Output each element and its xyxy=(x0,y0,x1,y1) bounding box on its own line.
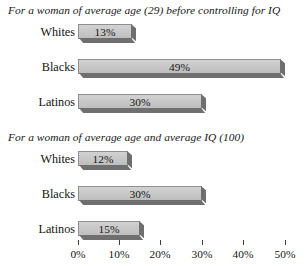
panel-1-title: For a woman of average age (29) before c… xyxy=(8,4,280,17)
x-axis-tick-label: 30% xyxy=(182,247,222,261)
bar-row: Whites 13% xyxy=(0,24,307,44)
bar-whites: 13% xyxy=(78,24,132,39)
x-axis: 0% 10% 20% 30% 40% 50% xyxy=(0,240,307,266)
bar-value-label: 15% xyxy=(79,222,139,237)
bar-latinos: 30% xyxy=(78,94,202,109)
category-label-latinos: Latinos xyxy=(0,95,75,110)
x-axis-tick xyxy=(202,240,203,245)
category-label-blacks: Blacks xyxy=(0,187,75,202)
x-axis-tick-label: 50% xyxy=(265,247,305,261)
bar-blacks: 49% xyxy=(78,59,281,74)
bar-row: Blacks 30% xyxy=(0,186,307,206)
x-axis-tick-label: 0% xyxy=(58,247,98,261)
x-axis-tick xyxy=(285,240,286,245)
bar-value-label: 13% xyxy=(79,25,131,40)
x-axis-tick xyxy=(243,240,244,245)
x-axis-tick-label: 40% xyxy=(223,247,263,261)
bar-value-label: 12% xyxy=(79,152,127,167)
bar-row: Blacks 49% xyxy=(0,59,307,79)
bar-value-label: 49% xyxy=(79,60,280,75)
bar-row: Latinos 15% xyxy=(0,221,307,241)
bar-value-label: 30% xyxy=(79,95,201,110)
x-axis-tick xyxy=(160,240,161,245)
bar-latinos: 15% xyxy=(78,221,140,236)
bar-blacks: 30% xyxy=(78,186,202,201)
bar-whites: 12% xyxy=(78,151,128,166)
x-axis-tick-label: 20% xyxy=(140,247,180,261)
category-label-whites: Whites xyxy=(0,25,75,40)
bar-value-label: 30% xyxy=(79,187,201,202)
category-label-latinos: Latinos xyxy=(0,222,75,237)
chart-figure: For a woman of average age (29) before c… xyxy=(0,0,307,266)
category-label-whites: Whites xyxy=(0,152,75,167)
x-axis-tick-label: 10% xyxy=(99,247,139,261)
panel-2-plot-area: Whites 12% Blacks 30% Latinos 15% xyxy=(0,147,307,239)
bar-row: Whites 12% xyxy=(0,151,307,171)
category-label-blacks: Blacks xyxy=(0,60,75,75)
bar-row: Latinos 30% xyxy=(0,94,307,114)
panel-1-plot-area: Whites 13% Blacks 49% Latinos 30% xyxy=(0,20,307,125)
panel-2-title: For a woman of average age and average I… xyxy=(8,131,244,144)
x-axis-tick xyxy=(119,240,120,245)
x-axis-tick xyxy=(78,240,79,245)
